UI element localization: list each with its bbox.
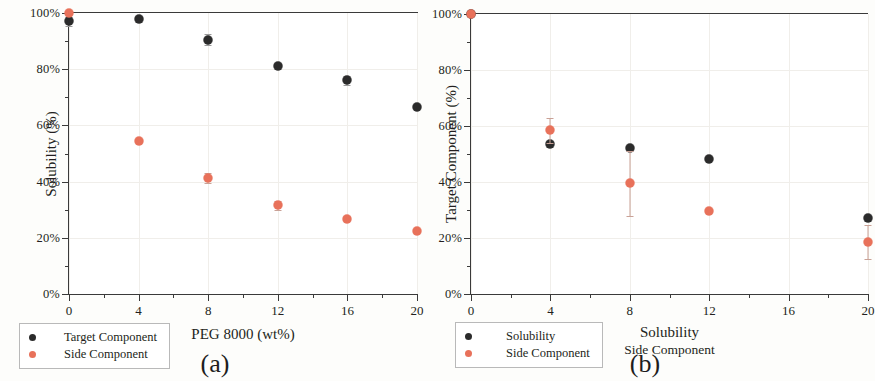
gridline-vertical [789,14,790,294]
panel-caption-b: (b) [430,349,860,379]
data-point [134,15,143,24]
x-axis-title-line-1: Solubility [640,324,699,340]
x-axis-tick [69,294,70,301]
gridline-vertical [278,13,279,294]
y-axis-tick-label: 60% [36,118,60,133]
legend-marker-icon [465,333,472,340]
panel-b: Target Component (%) Solubility Side Com… [430,0,860,381]
x-axis-tick [417,294,418,301]
x-axis-tick [630,294,631,301]
y-axis-tick-label: 40% [438,175,462,190]
y-axis-minor-tick [65,266,69,267]
y-axis-minor-tick [467,266,471,267]
data-point [864,214,873,223]
data-point [413,103,422,112]
y-axis-minor-tick [65,97,69,98]
legend-item-label: Target Component [64,330,157,345]
y-axis-tick-label: 100% [30,6,60,21]
y-axis-tick [464,126,471,127]
x-axis-tick-label: 8 [627,303,634,319]
error-bar-cap [626,151,633,152]
y-axis-minor-tick [65,154,69,155]
x-axis-minor-tick [382,294,383,298]
panel-a: Solubility (%) PEG 8000 (wt%) 0481216200… [0,0,430,381]
gridline-horizontal [471,238,868,239]
gridline-vertical [347,13,348,294]
x-axis-tick [139,294,140,301]
gridline-horizontal [69,238,417,239]
gridline-vertical [417,13,418,294]
legend-item-target-component: Target Component [29,329,157,346]
gridline-horizontal [471,70,868,71]
error-bar-cap [205,183,212,184]
error-bar-cap [865,225,872,226]
gridline-vertical [208,13,209,294]
data-point [546,126,555,135]
y-axis-title-b: Target Component (%) [443,85,460,223]
x-axis-tick-label: 0 [468,303,475,319]
gridline-vertical [69,13,70,294]
x-axis-tick [789,294,790,301]
data-point [65,9,74,18]
x-axis-tick [278,294,279,301]
panel-caption-a: (a) [0,349,430,379]
data-point [273,201,282,210]
x-axis-tick-label: 20 [411,303,424,319]
x-axis-tick-label: 4 [547,303,554,319]
gridline-vertical [471,14,472,294]
y-axis-tick-label: 40% [36,174,60,189]
legend-item-label: Solubility [506,329,555,344]
x-axis-tick [550,294,551,301]
x-axis-tick-label: 12 [271,303,284,319]
y-axis-tick [464,294,471,295]
data-point [625,179,634,188]
error-bar-cap [205,45,212,46]
data-point [204,173,213,182]
gridline-horizontal [69,182,417,183]
legend-marker-icon [29,334,36,341]
y-axis-tick-label: 0% [445,287,462,302]
x-axis-minor-tick [828,294,829,298]
y-axis-minor-tick [467,42,471,43]
data-point [467,10,476,19]
y-axis-minor-tick [65,210,69,211]
y-axis-tick [464,182,471,183]
y-axis-minor-tick [467,98,471,99]
y-axis-tick-label: 80% [36,62,60,77]
y-axis-tick-label: 20% [438,231,462,246]
data-point [413,227,422,236]
plot-area-b: Target Component (%) Solubility Side Com… [470,13,868,295]
y-axis-tick-label: 60% [438,119,462,134]
gridline-vertical [550,14,551,294]
x-axis-minor-tick [749,294,750,298]
legend-item-solubility: Solubility [465,328,590,345]
x-axis-minor-tick [590,294,591,298]
data-point [134,136,143,145]
gridline-horizontal [471,126,868,127]
y-axis-minor-tick [65,41,69,42]
x-axis-tick-label: 16 [341,303,354,319]
data-point [65,17,74,26]
y-axis-tick [62,294,69,295]
x-axis-tick-label: 0 [66,303,73,319]
x-axis-tick [868,294,869,301]
x-axis-minor-tick [104,294,105,298]
y-axis-tick [464,238,471,239]
error-bar-cap [547,118,554,119]
y-axis-minor-tick [467,154,471,155]
y-axis-tick-label: 20% [36,230,60,245]
y-axis-minor-tick [467,210,471,211]
y-axis-tick [62,125,69,126]
x-axis-tick-label: 12 [703,303,716,319]
y-axis-tick-label: 0% [43,287,60,302]
gridline-horizontal [471,182,868,183]
x-axis-minor-tick [670,294,671,298]
y-axis-tick-label: 100% [432,7,462,22]
y-axis-tick [62,238,69,239]
gridline-horizontal [69,125,417,126]
x-axis-tick-label: 8 [205,303,212,319]
x-axis-minor-tick [313,294,314,298]
error-bar-cap [626,216,633,217]
x-axis-minor-tick [511,294,512,298]
